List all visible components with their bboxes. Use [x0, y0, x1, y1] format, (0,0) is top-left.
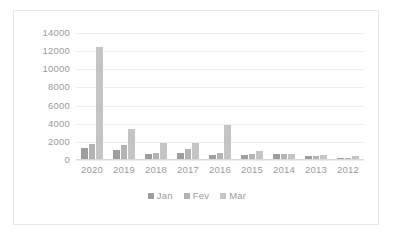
- chart-frame: 02000400060008000100001200014000 2020201…: [13, 10, 379, 225]
- x-axis-tick-label: 2016: [204, 163, 236, 177]
- x-axis-tick-label: 2012: [332, 163, 364, 177]
- bar-jan-2012[interactable]: [337, 158, 344, 159]
- y-axis-tick-label: 0: [26, 155, 70, 165]
- bar-jan-2015[interactable]: [241, 155, 248, 159]
- bar-group: [204, 33, 236, 159]
- bar-jan-2016[interactable]: [209, 155, 216, 159]
- bar-fev-2015[interactable]: [249, 154, 256, 159]
- bar-jan-2014[interactable]: [273, 154, 280, 159]
- x-axis-tick-label: 2018: [140, 163, 172, 177]
- legend-label: Mar: [229, 191, 246, 201]
- y-axis-tick-label: 6000: [26, 101, 70, 111]
- bar-group: [236, 33, 268, 159]
- bar-mar-2020[interactable]: [96, 47, 103, 159]
- bar-group: [172, 33, 204, 159]
- chart-plot-wrapper: 02000400060008000100001200014000 2020201…: [14, 11, 380, 226]
- bar-fev-2014[interactable]: [281, 154, 288, 159]
- legend-swatch-icon: [148, 193, 154, 199]
- bar-mar-2014[interactable]: [288, 154, 295, 159]
- y-axis-tick-label: 12000: [26, 46, 70, 56]
- legend-label: Fev: [193, 191, 209, 201]
- bar-fev-2012[interactable]: [345, 158, 352, 159]
- bar-mar-2016[interactable]: [224, 125, 231, 159]
- bar-groups: [76, 33, 364, 159]
- bar-mar-2015[interactable]: [256, 151, 263, 159]
- bar-jan-2019[interactable]: [113, 150, 120, 159]
- legend-item-mar[interactable]: Mar: [220, 191, 246, 201]
- y-axis-tick-label: 2000: [26, 137, 70, 147]
- y-axis-tick-label: 10000: [26, 65, 70, 75]
- bar-group: [300, 33, 332, 159]
- x-axis-tick-label: 2019: [108, 163, 140, 177]
- legend-item-fev[interactable]: Fev: [184, 191, 209, 201]
- bar-group: [268, 33, 300, 159]
- bar-fev-2017[interactable]: [185, 149, 192, 159]
- bar-group: [332, 33, 364, 159]
- bar-fev-2019[interactable]: [121, 145, 128, 160]
- x-axis-tick-label: 2020: [76, 163, 108, 177]
- bar-mar-2019[interactable]: [128, 129, 135, 159]
- chart-legend: JanFevMar: [14, 191, 380, 201]
- bar-mar-2017[interactable]: [192, 143, 199, 159]
- bar-fev-2018[interactable]: [153, 153, 160, 159]
- y-axis-tick-label: 14000: [26, 28, 70, 38]
- axis-baseline: [76, 159, 364, 160]
- x-axis-tick-label: 2014: [268, 163, 300, 177]
- x-axis-tick-label: 2017: [172, 163, 204, 177]
- x-axis-tick-label: 2013: [300, 163, 332, 177]
- legend-label: Jan: [157, 191, 173, 201]
- bar-group: [76, 33, 108, 159]
- bar-fev-2020[interactable]: [89, 144, 96, 159]
- plot-area: [76, 33, 364, 160]
- bar-mar-2013[interactable]: [320, 155, 327, 159]
- bar-mar-2018[interactable]: [160, 143, 167, 159]
- bar-jan-2013[interactable]: [305, 156, 312, 159]
- x-axis: 202020192018201720162015201420132012: [76, 163, 364, 177]
- y-axis-tick-label: 4000: [26, 119, 70, 129]
- legend-swatch-icon: [220, 193, 226, 199]
- bar-mar-2012[interactable]: [352, 156, 359, 159]
- bar-fev-2013[interactable]: [313, 156, 320, 159]
- bar-jan-2020[interactable]: [81, 148, 88, 159]
- y-axis-tick-label: 8000: [26, 83, 70, 93]
- bar-fev-2016[interactable]: [217, 153, 224, 159]
- bar-group: [108, 33, 140, 159]
- bar-group: [140, 33, 172, 159]
- legend-item-jan[interactable]: Jan: [148, 191, 173, 201]
- x-axis-tick-label: 2015: [236, 163, 268, 177]
- bar-jan-2018[interactable]: [145, 154, 152, 159]
- legend-swatch-icon: [184, 193, 190, 199]
- bar-jan-2017[interactable]: [177, 153, 184, 159]
- gridline: [76, 160, 364, 161]
